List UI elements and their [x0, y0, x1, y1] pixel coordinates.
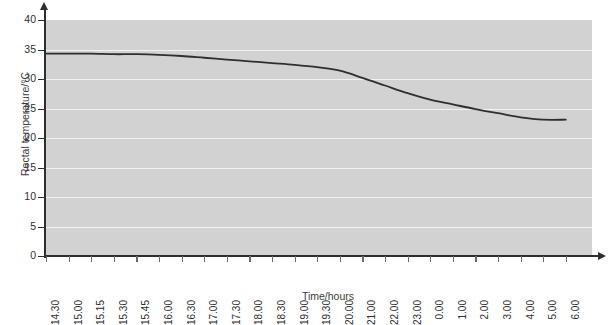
- x-tick-label: 22.00: [389, 300, 400, 325]
- y-tick-10: [38, 197, 44, 198]
- x-tick-label: 15.15: [95, 300, 106, 325]
- x-tick-4.00: [521, 256, 522, 262]
- x-tick-label: 1.00: [457, 300, 468, 319]
- x-tick-14.30: [46, 256, 47, 262]
- x-axis-title: Time/hours: [258, 290, 398, 302]
- y-tick-35: [38, 50, 44, 51]
- x-tick-label: 3.00: [502, 300, 513, 319]
- x-tick-6.00: [566, 256, 567, 262]
- x-tick-label: 21.00: [366, 300, 377, 325]
- y-tick-0: [38, 256, 44, 257]
- x-tick-15.30: [114, 256, 115, 262]
- x-tick-16.30: [182, 256, 183, 262]
- y-tick-label: 40: [18, 13, 36, 25]
- x-tick-15.00: [69, 256, 70, 262]
- x-tick-label: 18.30: [276, 300, 287, 325]
- x-tick-label: 19.30: [321, 300, 332, 325]
- x-tick-17.00: [204, 256, 205, 262]
- x-tick-label: 20.00: [344, 300, 355, 325]
- y-axis-line: [44, 8, 46, 258]
- y-tick-25: [38, 109, 44, 110]
- x-tick-label: 15.30: [118, 300, 129, 325]
- x-tick-5.00: [543, 256, 544, 262]
- y-tick-15: [38, 168, 44, 169]
- x-tick-label: 17.30: [231, 300, 242, 325]
- x-tick-label: 19.00: [299, 300, 310, 325]
- x-axis-arrow-icon: [598, 252, 606, 260]
- x-tick-3.00: [498, 256, 499, 262]
- x-tick-18.00: [249, 256, 250, 262]
- y-tick-20: [38, 138, 44, 139]
- x-tick-0.00: [430, 256, 431, 262]
- x-tick-20.00: [340, 256, 341, 262]
- x-tick-22.00: [385, 256, 386, 262]
- x-tick-19.00: [295, 256, 296, 262]
- x-tick-1.00: [453, 256, 454, 262]
- y-tick-5: [38, 227, 44, 228]
- x-tick-label: 6.00: [570, 300, 581, 319]
- x-tick-label: 4.00: [525, 300, 536, 319]
- y-axis-arrow-icon: [40, 2, 48, 10]
- x-tick-17.30: [227, 256, 228, 262]
- x-tick-19.30: [317, 256, 318, 262]
- x-tick-label: 0.00: [434, 300, 445, 319]
- x-tick-label: 16.30: [186, 300, 197, 325]
- x-tick-label: 5.00: [547, 300, 558, 319]
- x-tick-label: 18.00: [253, 300, 264, 325]
- x-tick-18.30: [272, 256, 273, 262]
- y-tick-label: 0: [18, 249, 36, 261]
- x-tick-15.15: [91, 256, 92, 262]
- x-tick-label: 2.00: [479, 300, 490, 319]
- y-tick-40: [38, 20, 44, 21]
- x-tick-label: 17.00: [208, 300, 219, 325]
- x-tick-2.00: [475, 256, 476, 262]
- x-tick-15.45: [136, 256, 137, 262]
- x-tick-label: 23.00: [412, 300, 423, 325]
- y-tick-label: 5: [18, 220, 36, 232]
- x-tick-21.00: [362, 256, 363, 262]
- x-tick-16.00: [159, 256, 160, 262]
- x-tick-label: 15.45: [140, 300, 151, 325]
- x-tick-label: 15.00: [73, 300, 84, 325]
- x-tick-23.00: [408, 256, 409, 262]
- y-tick-30: [38, 79, 44, 80]
- x-tick-label: 16.00: [163, 300, 174, 325]
- x-tick-label: 14.30: [50, 300, 61, 325]
- y-axis-title: Rectal temperature/°C: [19, 29, 31, 219]
